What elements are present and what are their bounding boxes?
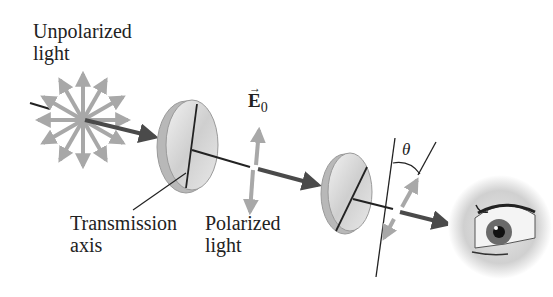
analyzer-axis-line bbox=[418, 142, 436, 175]
polarized-light-label: Polarized light bbox=[205, 212, 281, 256]
polarized-label-line2: light bbox=[205, 234, 281, 256]
angle-theta-label: θ bbox=[402, 140, 410, 160]
e-field-double-arrow-icon bbox=[250, 130, 259, 212]
transmission-label-line2: axis bbox=[70, 234, 177, 256]
transmission-axis-label: Transmission axis bbox=[70, 212, 177, 256]
e-field-subscript: 0 bbox=[261, 100, 268, 115]
angle-arc bbox=[393, 162, 420, 174]
polarizer-1 bbox=[157, 100, 218, 193]
eye-icon bbox=[448, 175, 552, 279]
unpolarized-star-icon bbox=[38, 74, 128, 166]
theta-symbol: θ bbox=[402, 140, 410, 159]
transmission-label-line1: Transmission bbox=[70, 212, 177, 234]
polarized-label-line1: Polarized bbox=[205, 212, 281, 234]
unpolarized-light-label: Unpolarized light bbox=[33, 20, 132, 64]
e-field-vector-arrow: → bbox=[249, 81, 261, 96]
incoming-ray bbox=[30, 103, 50, 109]
e-field-label: → E0 bbox=[248, 90, 268, 116]
beam-segment-3 bbox=[258, 169, 318, 185]
unpolarized-label-line2: light bbox=[33, 42, 132, 64]
beam-segment-5 bbox=[400, 212, 448, 224]
polarizer-2-analyzer bbox=[321, 153, 372, 234]
vertical-reference-line bbox=[376, 138, 395, 277]
unpolarized-label-line1: Unpolarized bbox=[33, 20, 132, 42]
